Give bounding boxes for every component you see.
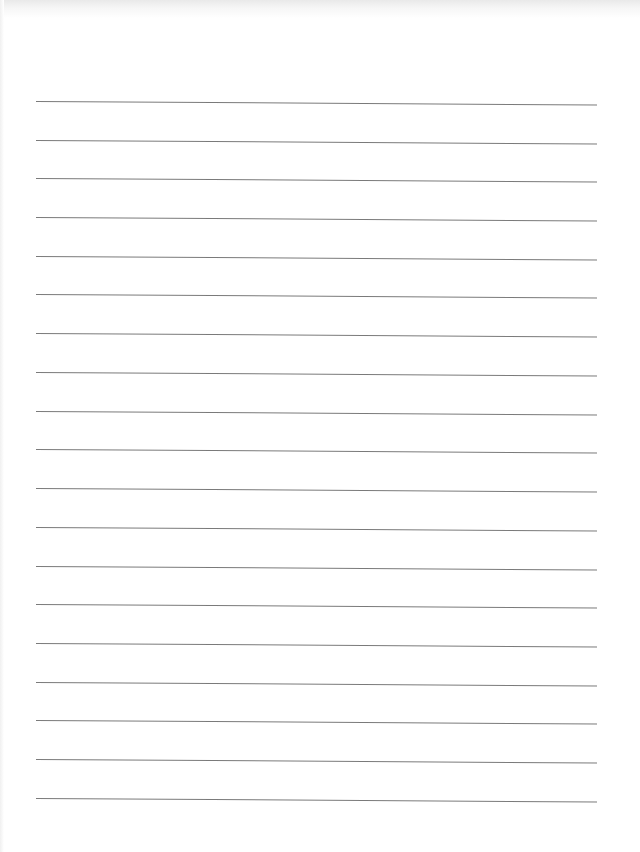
- ruled-line: [36, 488, 597, 492]
- ruled-line: [36, 720, 597, 724]
- ruled-line: [36, 449, 597, 453]
- ruled-line: [36, 333, 597, 337]
- ruled-line: [36, 527, 597, 531]
- ruled-line: [36, 604, 597, 608]
- ruled-line: [36, 682, 597, 686]
- ruled-line: [36, 140, 597, 144]
- ruled-line: [36, 372, 597, 376]
- ruled-line: [36, 101, 597, 105]
- ruled-line: [36, 759, 597, 763]
- ruled-line: [36, 178, 597, 182]
- ruled-line: [36, 798, 597, 802]
- ruled-line: [36, 643, 597, 647]
- ruled-line: [36, 411, 597, 415]
- ruled-line: [36, 294, 597, 298]
- ruled-line: [36, 566, 597, 570]
- ruled-line: [36, 217, 597, 221]
- ruled-line: [36, 256, 597, 260]
- lined-paper-sheet: [0, 0, 640, 852]
